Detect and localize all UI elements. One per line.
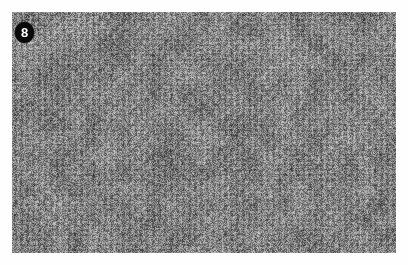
panel-label-text: 8 [21, 26, 28, 39]
fabric-texture-image [12, 12, 396, 253]
panel-label-badge: 8 [15, 22, 34, 43]
texture-image-plate [12, 12, 396, 253]
figure-panel: 8 [0, 0, 408, 265]
